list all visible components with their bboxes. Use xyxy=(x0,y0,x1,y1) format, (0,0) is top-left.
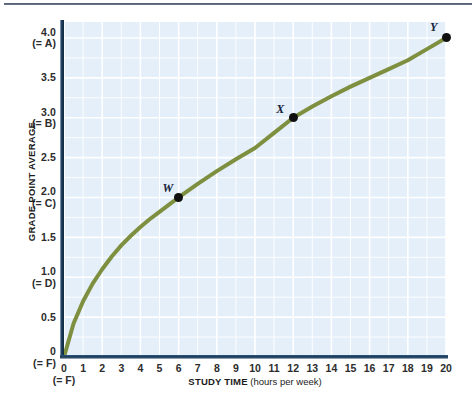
y-tick-label: 0(= F) xyxy=(10,346,56,369)
y-axis-line xyxy=(60,20,64,359)
y-axis-title: GRADE POINT AVERAGE xyxy=(26,102,37,262)
plot-area xyxy=(64,22,446,357)
x-axis-title-strong: STUDY TIME xyxy=(188,376,247,387)
y-tick-value: 3.0 xyxy=(41,106,56,118)
y-tick-value: 1.0 xyxy=(41,265,56,277)
x-axis-title: STUDY TIME (hours per week) xyxy=(64,376,446,387)
y-tick-value: 0 xyxy=(50,345,56,357)
y-tick-value: 2.0 xyxy=(41,185,56,197)
data-point-y[interactable] xyxy=(442,33,451,42)
y-tick-grade-letter: (= F) xyxy=(10,358,56,370)
x-tick-label: 20 xyxy=(435,362,457,374)
y-tick-grade-letter: (= D) xyxy=(10,278,56,290)
y-tick-label: 4.0(= A) xyxy=(10,27,56,50)
chart-figure: 4.0(= A)3.53.0(= B)2.52.0(= C)1.51.0(= D… xyxy=(0,0,476,410)
y-tick-value: 4.0 xyxy=(41,26,56,38)
y-tick-label: 0.5 xyxy=(10,312,56,324)
data-point-label-w: W xyxy=(163,181,174,196)
y-tick-value: 2.5 xyxy=(41,151,56,163)
y-tick-value: 3.5 xyxy=(41,71,56,83)
data-point-label-x: X xyxy=(276,102,284,117)
plot-svg xyxy=(64,22,446,357)
data-point-w[interactable] xyxy=(174,193,183,202)
y-tick-value: 0.5 xyxy=(41,311,56,323)
data-point-label-y: Y xyxy=(430,20,437,35)
data-point-x[interactable] xyxy=(289,113,298,122)
y-tick-value: 1.5 xyxy=(41,231,56,243)
x-axis-line xyxy=(60,355,448,359)
y-tick-label: 3.5 xyxy=(10,72,56,84)
y-tick-label: 1.0(= D) xyxy=(10,266,56,289)
y-tick-grade-letter: (= A) xyxy=(10,38,56,50)
x-axis-title-light: (hours per week) xyxy=(248,376,322,387)
